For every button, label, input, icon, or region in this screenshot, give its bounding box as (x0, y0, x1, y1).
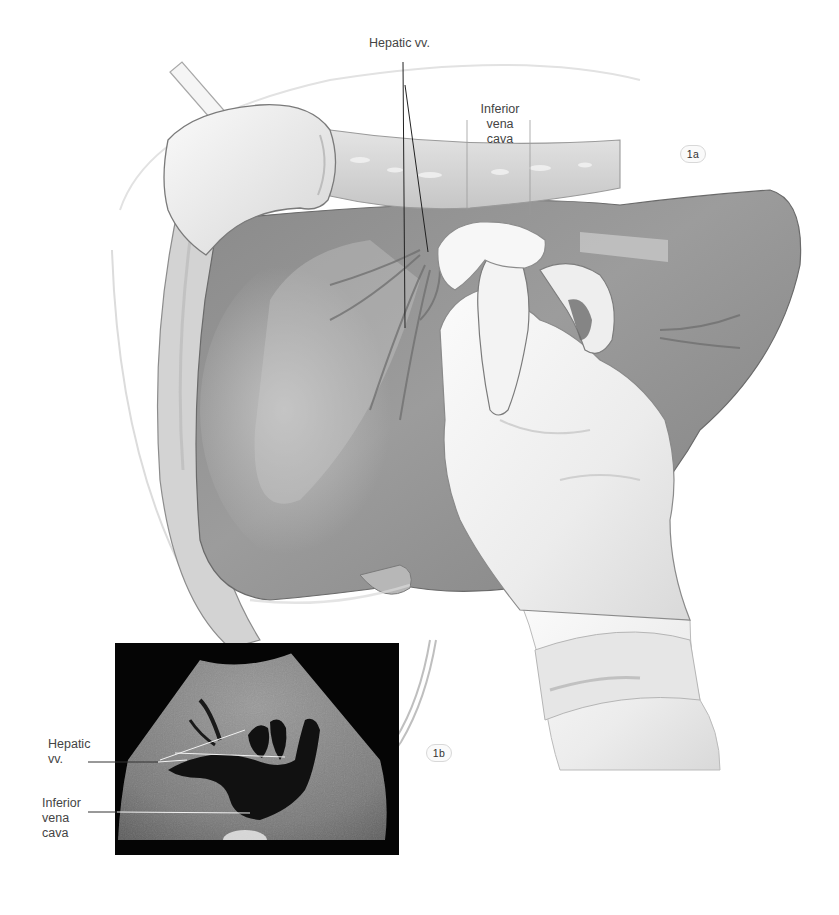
panel-badge-1a: 1a (680, 145, 706, 163)
label-us-ivc-line-2: vena (42, 811, 81, 826)
label-us-hepatic-line-1: Hepatic (48, 737, 90, 752)
label-us-hepatic-veins: Hepatic vv. (48, 737, 90, 767)
label-us-ivc-line-1: Inferior (42, 796, 81, 811)
panel-badge-1b: 1b (426, 744, 452, 762)
label-us-hepatic-line-2: vv. (48, 752, 90, 767)
label-hepatic-veins: Hepatic vv. (369, 36, 430, 51)
label-inferior-vena-cava: Inferior vena cava (472, 102, 528, 147)
label-ivc-line-2: vena (472, 117, 528, 132)
label-ivc-line-1: Inferior (472, 102, 528, 117)
label-us-inferior-vena-cava: Inferior vena cava (42, 796, 81, 841)
label-us-ivc-line-3: cava (42, 826, 81, 841)
liver-palpation-illustration (0, 0, 839, 915)
ultrasound-image (115, 643, 399, 855)
label-ivc-line-3: cava (472, 132, 528, 147)
